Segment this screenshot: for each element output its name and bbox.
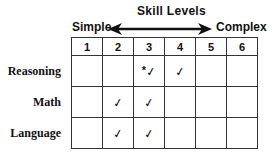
- cell: ✓: [103, 87, 134, 118]
- cell: [72, 56, 103, 87]
- simple-label: Simple: [72, 20, 111, 34]
- cell: [165, 87, 196, 118]
- column-header: 1: [72, 38, 103, 56]
- cell: [227, 87, 258, 118]
- cell: [72, 87, 103, 118]
- row-label-math: Math: [33, 95, 61, 110]
- check-icon: ✓: [145, 64, 157, 80]
- cell: ✓: [165, 56, 196, 87]
- cell: ✓: [134, 118, 165, 149]
- double-arrow-icon: [108, 22, 212, 36]
- table-row: *✓ ✓: [72, 56, 258, 87]
- column-header: 4: [165, 38, 196, 56]
- cell: ✓: [134, 87, 165, 118]
- table-row: ✓ ✓: [72, 118, 258, 149]
- row-label-language: Language: [10, 126, 61, 141]
- row-label-reasoning: Reasoning: [8, 64, 61, 79]
- cell: *✓: [134, 56, 165, 87]
- check-icon: ✓: [112, 126, 124, 142]
- diagram-title: Skill Levels: [137, 4, 206, 18]
- check-icon: ✓: [143, 126, 155, 142]
- skill-grid: 1 2 3 4 5 6 *✓ ✓ ✓ ✓ ✓ ✓: [71, 37, 258, 149]
- cell: [72, 118, 103, 149]
- cell: [103, 56, 134, 87]
- column-header: 6: [227, 38, 258, 56]
- check-icon: ✓: [174, 64, 186, 80]
- check-icon: ✓: [112, 95, 124, 111]
- check-icon: ✓: [143, 95, 155, 111]
- cell: [227, 56, 258, 87]
- cell: [196, 118, 227, 149]
- cell: [227, 118, 258, 149]
- table-row: ✓ ✓: [72, 87, 258, 118]
- column-header: 2: [103, 38, 134, 56]
- column-header: 3: [134, 38, 165, 56]
- header-row: 1 2 3 4 5 6: [72, 38, 258, 56]
- complex-label: Complex: [216, 20, 267, 34]
- column-header: 5: [196, 38, 227, 56]
- cell: [165, 118, 196, 149]
- cell: [196, 56, 227, 87]
- cell: [196, 87, 227, 118]
- cell: ✓: [103, 118, 134, 149]
